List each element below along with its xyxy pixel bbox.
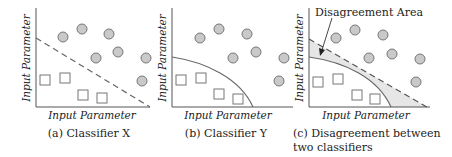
y-axis-label: Input Parameter [20,13,32,103]
circle-markers [58,24,151,86]
caption-line-1: (c) Disagreement between [293,127,441,140]
decision-boundary-dashed [36,38,150,107]
disagreement-area-label: Disagreement Area [315,6,424,19]
x-axis-label: Input Parameter [47,109,137,121]
caption: (a) Classifier X [48,127,131,140]
caption-line-2: two classifiers [293,141,373,154]
y-axis-label: Input Parameter [156,13,168,103]
square-markers [176,73,243,104]
panel-a: Input Parameter Input Parameter (a) Clas… [20,8,151,140]
y-axis-label: Input Parameter [293,13,305,103]
circle-markers [195,24,289,86]
circle-markers [331,25,425,87]
square-markers [40,73,107,103]
caption: (b) Classifier Y [185,127,268,140]
annotation-arrow-shaft [322,18,332,50]
panel-b: Input Parameter Input Parameter (b) Clas… [156,8,293,140]
panel-c: Disagreement Area Input Parameter Input … [293,6,441,154]
x-axis-label: Input Parameter [321,109,411,121]
figure: Input Parameter Input Parameter (a) Clas… [0,0,452,157]
x-axis-label: Input Parameter [183,109,273,121]
